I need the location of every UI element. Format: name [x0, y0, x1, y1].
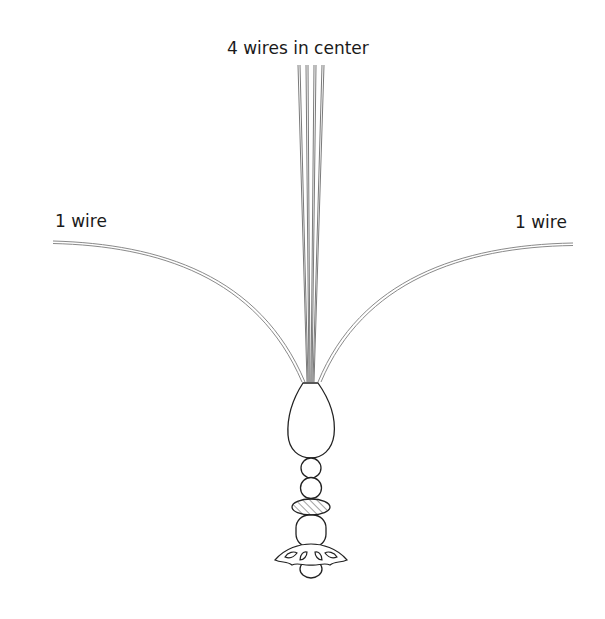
hatched-rondelle	[292, 499, 330, 515]
round-bead-medium	[301, 478, 322, 499]
round-bead-small	[301, 458, 321, 478]
right-wire	[318, 243, 573, 382]
round-bead-large	[296, 515, 326, 547]
center-wires	[298, 65, 324, 382]
teardrop-bead	[288, 383, 335, 458]
flower-bead-cap	[275, 544, 347, 565]
beaded-wire-diagram	[0, 0, 605, 619]
left-wire	[53, 241, 305, 382]
